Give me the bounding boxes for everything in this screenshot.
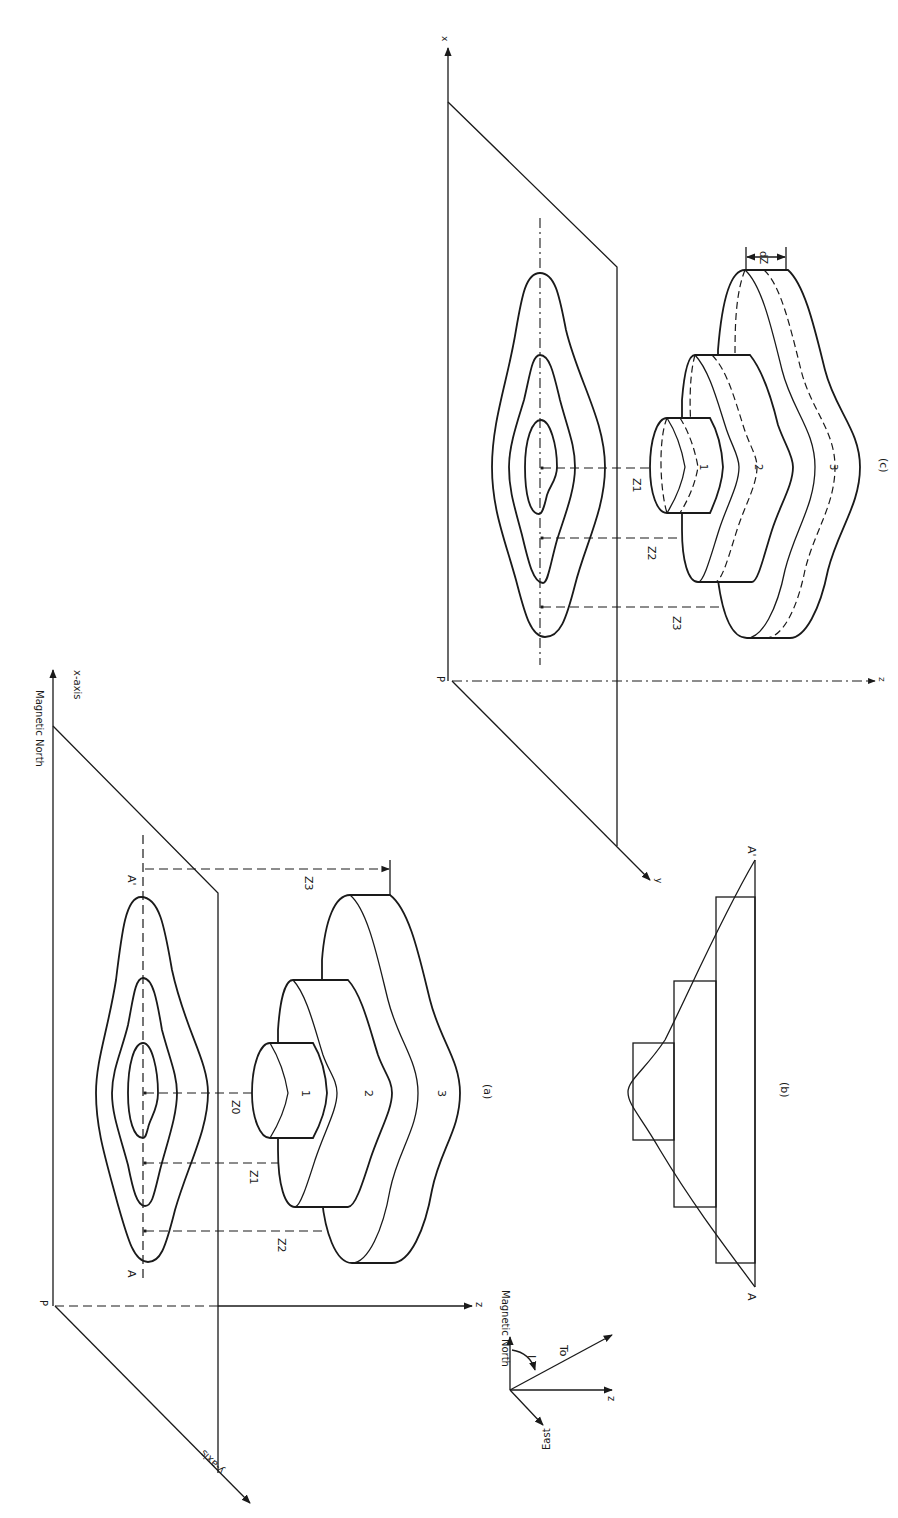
legend-inclination-label: I: [525, 1355, 538, 1358]
magnetic-body-diagram: x-axis Magnetic North y-axis P z A A' Z0…: [0, 0, 898, 1518]
section-block-3: [716, 897, 755, 1263]
body-label-1-c: 1: [698, 464, 709, 470]
section-end-label: A': [125, 875, 138, 886]
panel-b: A' A (b): [628, 846, 791, 1301]
plane-outline: [53, 726, 218, 1473]
origin-label-c: P: [435, 676, 446, 682]
depth-label-z0: Z0: [229, 1100, 242, 1115]
body-1: [252, 1043, 327, 1138]
contour-inner-c: [525, 420, 557, 514]
legend-field-label: To: [557, 1344, 570, 1357]
section-end-label-b: A': [745, 846, 758, 857]
section-start-label-b: A: [745, 1293, 758, 1301]
plane-outline-c: [448, 102, 617, 846]
panel-a-caption: (a): [481, 1084, 494, 1099]
legend-field-arrow: [510, 1335, 612, 1390]
panel-b-caption: (b): [778, 1082, 791, 1098]
y-axis-label-c: y: [654, 878, 664, 884]
body-label-2: 2: [362, 1090, 375, 1097]
legend-east-arrow: [510, 1390, 543, 1425]
depth-label-z1: Z1: [247, 1170, 260, 1185]
body-label-3-c: 3: [828, 464, 839, 470]
section-start-label: A: [125, 1270, 138, 1278]
section-block-1: [633, 1043, 674, 1140]
contour-middle-c: [509, 355, 575, 583]
depth-label-z3: Z3: [302, 876, 315, 891]
z-axis-label: z: [474, 1302, 485, 1307]
z-axis-label-c: z: [877, 677, 887, 682]
depth-label-z1-c: Z1: [630, 478, 643, 493]
body-label-2-c: 2: [753, 464, 764, 470]
y-axis-label: y-axis: [198, 1448, 227, 1477]
legend-east-label: East: [541, 1428, 552, 1450]
thickness-label: dZ: [758, 251, 769, 264]
panel-c: x y P z Z1 Z2 Z3: [435, 36, 890, 884]
contour-middle: [112, 978, 177, 1206]
depth-label-z2: Z2: [275, 1238, 288, 1253]
body-label-3: 3: [435, 1090, 448, 1097]
inclination-arc: [512, 1350, 535, 1370]
section-block-2: [674, 981, 716, 1207]
depth-label-z3-c: Z3: [670, 616, 683, 631]
anomaly-profile-curve: [628, 860, 755, 1287]
origin-label: P: [38, 1300, 49, 1306]
magnetic-north-label: Magnetic North: [34, 690, 45, 767]
body-label-1: 1: [299, 1090, 312, 1097]
x-axis-label: x-axis: [72, 670, 83, 700]
panel-a: x-axis Magnetic North y-axis P z A A' Z0…: [34, 670, 494, 1503]
legend-north-label: Magnetic North: [500, 1290, 511, 1367]
panel-c-caption: (c): [877, 458, 890, 473]
body-1-c: [650, 418, 723, 513]
field-legend: Magnetic North I To z East: [500, 1290, 617, 1450]
legend-z-label: z: [606, 1396, 617, 1401]
x-axis-label-c: x: [440, 36, 450, 42]
depth-label-z2-c: Z2: [645, 546, 658, 561]
y-axis-line-c: [452, 681, 650, 880]
